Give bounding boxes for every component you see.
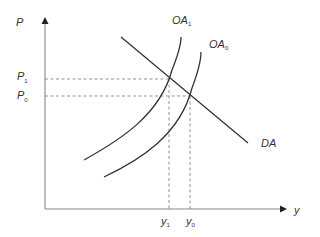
axes (42, 17, 288, 213)
y-axis-label: P (16, 16, 24, 28)
labels: P y OA1 OA0 DA P1 P0 y1 y0 (16, 14, 301, 228)
y0-label: y0 (185, 215, 196, 228)
p0-label: P0 (17, 89, 28, 103)
guide-lines (45, 79, 190, 209)
curves (84, 37, 248, 177)
oa1-curve (84, 37, 181, 160)
da-label: DA (261, 137, 276, 149)
oa1-label: OA1 (172, 14, 192, 27)
da-curve (121, 37, 248, 143)
diagram-canvas: P y OA1 OA0 DA P1 P0 y1 y0 (0, 0, 320, 237)
y1-label: y1 (160, 215, 171, 228)
oa0-curve (104, 52, 201, 177)
y-axis-arrow-icon (42, 17, 49, 24)
x-axis-arrow-icon (280, 206, 287, 213)
p1-label: P1 (17, 70, 28, 84)
oa0-label: OA0 (209, 38, 229, 51)
x-axis-label: y (293, 204, 301, 216)
